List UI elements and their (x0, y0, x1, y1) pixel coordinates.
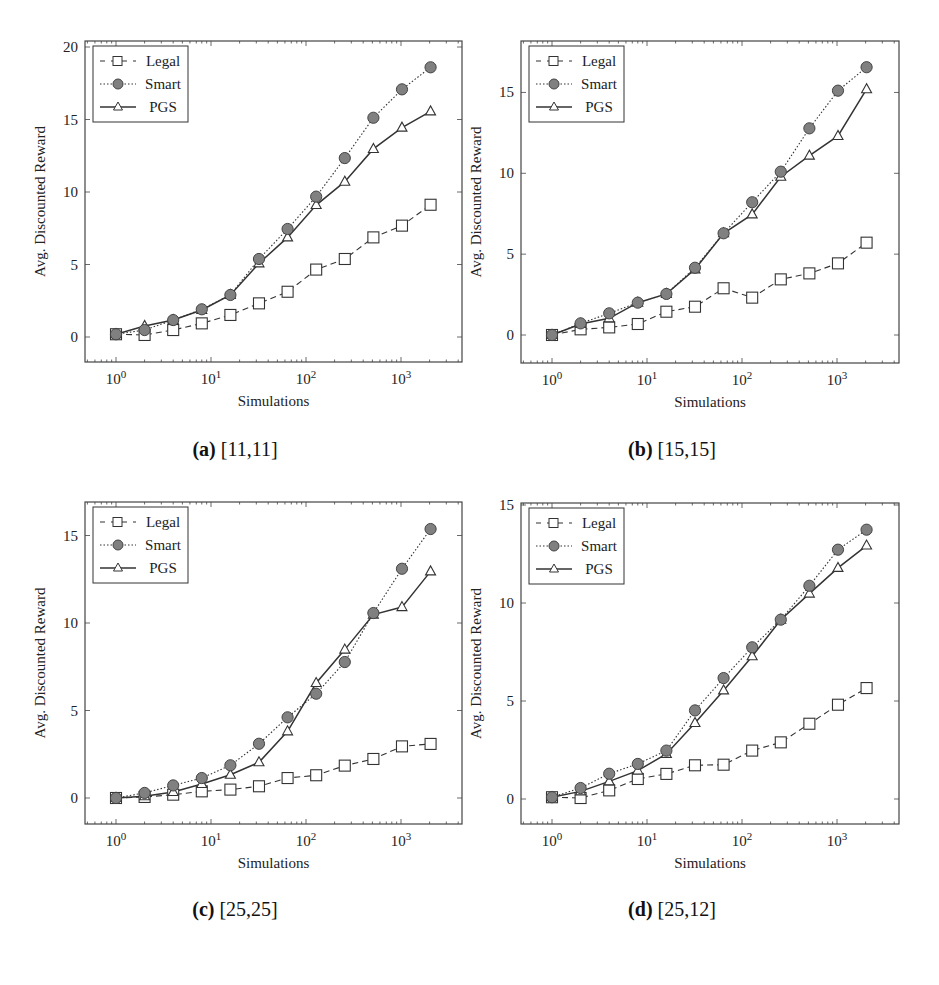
series-markers-legal (547, 237, 873, 340)
legend-label: Smart (145, 537, 182, 553)
circle-marker-icon (804, 123, 815, 134)
series-line-legal (552, 688, 867, 798)
circle-marker-icon (775, 614, 786, 625)
legend-label: PGS (149, 560, 177, 576)
circle-marker-icon (689, 705, 700, 716)
x-tick-label: 101 (201, 368, 222, 387)
circle-marker-icon (253, 253, 264, 264)
square-marker-icon (225, 309, 236, 320)
x-tick-label: 103 (391, 830, 412, 849)
square-marker-icon (861, 237, 872, 248)
square-marker-icon (804, 268, 815, 279)
circle-marker-icon (804, 580, 815, 591)
x-tick-label: 100 (106, 830, 127, 849)
caption-label: (d) (628, 898, 652, 920)
legend: LegalSmartPGS (529, 508, 624, 584)
y-tick-label: 5 (507, 693, 515, 709)
circle-marker-icon (168, 314, 179, 325)
series-markers-legal (111, 199, 437, 340)
x-axis-title: Simulations (238, 855, 310, 871)
square-marker-icon (632, 774, 643, 785)
circle-marker-icon (661, 745, 672, 756)
square-marker-icon (339, 253, 350, 264)
caption-b: (b) [15,15] (572, 438, 772, 461)
y-tick-label: 5 (507, 246, 515, 262)
caption-text: [11,11] (221, 438, 278, 460)
circle-marker-icon (368, 112, 379, 123)
caption-label: (b) (628, 438, 652, 460)
caption-a: (a) [11,11] (135, 438, 335, 461)
legend-label: Smart (581, 76, 618, 92)
square-marker-icon (632, 319, 643, 330)
y-tick-label: 10 (63, 184, 78, 200)
triangle-marker-icon (426, 106, 436, 115)
square-marker-icon (549, 57, 558, 66)
triangle-marker-icon (368, 143, 378, 152)
square-marker-icon (282, 286, 293, 297)
series-line-legal (552, 243, 867, 335)
square-marker-icon (832, 699, 843, 710)
triangle-marker-icon (426, 566, 436, 575)
square-marker-icon (718, 759, 729, 770)
figure: 10010110210305101520SimulationsAvg. Disc… (0, 0, 939, 985)
square-marker-icon (775, 737, 786, 748)
circle-marker-icon (546, 329, 557, 340)
legend-label: Legal (146, 53, 180, 69)
y-tick-label: 0 (71, 329, 79, 345)
triangle-marker-icon (862, 84, 872, 93)
circle-marker-icon (113, 79, 123, 89)
triangle-marker-icon (283, 726, 293, 735)
circle-marker-icon (368, 607, 379, 618)
chart-panel-b: 100101102103051015SimulationsAvg. Discou… (468, 41, 899, 410)
x-tick-label: 100 (542, 830, 563, 849)
square-marker-icon (368, 232, 379, 243)
y-axis-title: Avg. Discounted Reward (468, 126, 484, 277)
legend-label: Legal (582, 515, 616, 531)
y-axis-title: Avg. Discounted Reward (32, 126, 48, 277)
circle-marker-icon (282, 223, 293, 234)
triangle-marker-icon (397, 122, 407, 131)
y-axis-title: Avg. Discounted Reward (468, 588, 484, 739)
circle-marker-icon (832, 544, 843, 555)
legend-label: PGS (149, 99, 177, 115)
chart-panel-d: 100101102103051015SimulationsAvg. Discou… (468, 497, 899, 871)
x-tick-label: 100 (106, 368, 127, 387)
y-tick-label: 0 (507, 791, 515, 807)
circle-marker-icon (425, 62, 436, 73)
square-marker-icon (689, 301, 700, 312)
circle-marker-icon (168, 780, 179, 791)
circle-marker-icon (549, 79, 559, 89)
series-line-legal (116, 744, 431, 798)
triangle-marker-icon (833, 130, 843, 139)
circle-marker-icon (575, 318, 586, 329)
square-marker-icon (549, 519, 558, 528)
caption-text: [25,12] (658, 898, 716, 920)
circle-marker-icon (139, 324, 150, 335)
square-marker-icon (113, 518, 122, 527)
circle-marker-icon (311, 191, 322, 202)
circle-marker-icon (775, 166, 786, 177)
square-marker-icon (282, 773, 293, 784)
circle-marker-icon (546, 792, 557, 803)
circle-marker-icon (110, 329, 121, 340)
x-tick-label: 101 (637, 830, 658, 849)
series-markers-pgs (111, 106, 436, 338)
y-tick-label: 15 (63, 112, 78, 128)
circle-marker-icon (747, 197, 758, 208)
circle-marker-icon (110, 792, 121, 803)
series-line-legal (116, 205, 431, 335)
x-axis-title: Simulations (238, 393, 310, 409)
circle-marker-icon (311, 688, 322, 699)
legend-label: Legal (146, 514, 180, 530)
legend-label: Smart (145, 76, 182, 92)
square-marker-icon (253, 298, 264, 309)
x-tick-label: 103 (827, 830, 848, 849)
y-axis-title: Avg. Discounted Reward (32, 587, 48, 738)
square-marker-icon (775, 274, 786, 285)
circle-marker-icon (339, 656, 350, 667)
square-marker-icon (225, 784, 236, 795)
figure-canvas: 10010110210305101520SimulationsAvg. Disc… (0, 0, 939, 985)
square-marker-icon (396, 220, 407, 231)
caption-c: (c) [25,25] (135, 898, 335, 921)
y-tick-label: 10 (499, 595, 514, 611)
